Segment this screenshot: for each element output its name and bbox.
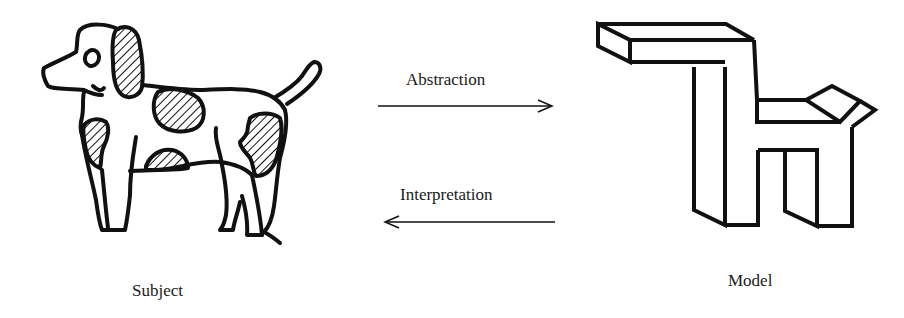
abstraction-label: Abstraction: [406, 70, 485, 90]
model-label: Model: [728, 271, 772, 291]
abstraction-arrow: [378, 100, 552, 112]
interpretation-label: Interpretation: [400, 185, 493, 205]
dog-drawing-icon: [43, 25, 320, 243]
block-model-icon: [598, 24, 875, 226]
subject-label: Subject: [132, 281, 183, 301]
interpretation-arrow: [385, 216, 555, 228]
diagram-canvas: Subject Model Abstraction Interpretation: [0, 0, 904, 318]
